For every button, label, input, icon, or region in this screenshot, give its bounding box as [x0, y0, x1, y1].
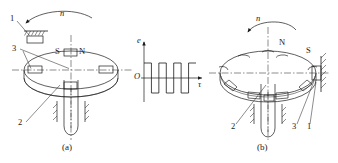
chart-x-axis-label: τ — [198, 80, 201, 89]
caption-a: (a) — [62, 143, 72, 152]
rotation-arrow-a — [26, 11, 92, 23]
pole-label-south-b: S — [306, 46, 311, 55]
callout-a-2: 2 — [18, 118, 22, 127]
callout-b-3: 3 — [292, 122, 296, 131]
pole-label-south-a: S — [55, 47, 60, 56]
panel-a-drawing — [12, 11, 132, 140]
callout-a-3: 3 — [12, 44, 16, 53]
callout-b-2: 2 — [231, 122, 235, 131]
sensor-block-a — [17, 21, 48, 43]
pole-label-north-b: N — [279, 38, 285, 47]
caption-b: (b) — [257, 143, 268, 152]
callout-a-1: 1 — [10, 14, 14, 23]
rotation-label-a: n — [60, 9, 64, 18]
panel-b-drawing — [209, 22, 330, 140]
chart-y-axis-label: e — [137, 36, 141, 45]
shaft-a — [53, 80, 89, 140]
pole-label-north-a: N — [79, 47, 85, 56]
rotation-label-b: n — [256, 14, 260, 23]
rotation-arrow-b — [248, 22, 296, 32]
figure-canvas — [0, 0, 338, 163]
callout-b-1: 1 — [307, 122, 311, 131]
waveform-chart — [141, 42, 202, 102]
chart-origin-label: O — [134, 72, 140, 81]
